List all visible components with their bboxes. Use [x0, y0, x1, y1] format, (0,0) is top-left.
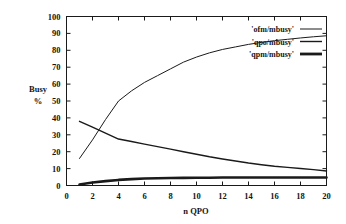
legend-label-2: 'qpm/mbusy'	[249, 50, 294, 59]
y-tick-label: 80	[52, 45, 61, 55]
y-axis-title-line1: Busy	[29, 84, 48, 94]
chart-figure: 0102030405060708090100 02468101214161820…	[0, 0, 346, 224]
x-tick-label: 18	[296, 191, 305, 201]
legend-label-0: 'ofm/mbusy'	[251, 25, 294, 34]
y-tick-label: 70	[52, 62, 61, 72]
x-tick-label: 20	[322, 191, 331, 201]
legend-label-1: 'qpo/mbusy'	[252, 38, 294, 47]
y-tick-label: 100	[48, 12, 61, 22]
x-tick-label: 0	[64, 191, 68, 201]
y-tick-label: 0	[56, 181, 60, 191]
x-tick-label: 8	[168, 191, 172, 201]
y-tick-label: 30	[52, 130, 61, 140]
x-axis-title: n QPO	[183, 206, 209, 216]
x-tick-label: 16	[270, 191, 279, 201]
y-tick-label: 90	[52, 28, 61, 38]
x-tick-label: 2	[90, 191, 94, 201]
y-tick-label: 50	[52, 96, 61, 106]
busy-percent-line-chart: 0102030405060708090100 02468101214161820…	[0, 0, 346, 224]
y-tick-label: 40	[52, 113, 61, 123]
y-tick-label: 20	[52, 147, 61, 157]
x-tick-label: 14	[244, 191, 253, 201]
x-tick-label: 10	[192, 191, 201, 201]
x-tick-label: 6	[142, 191, 146, 201]
y-axis-title-line2: %	[34, 96, 43, 106]
y-tick-label: 10	[52, 164, 61, 174]
x-tick-label: 12	[218, 191, 227, 201]
y-tick-label: 60	[52, 79, 61, 89]
